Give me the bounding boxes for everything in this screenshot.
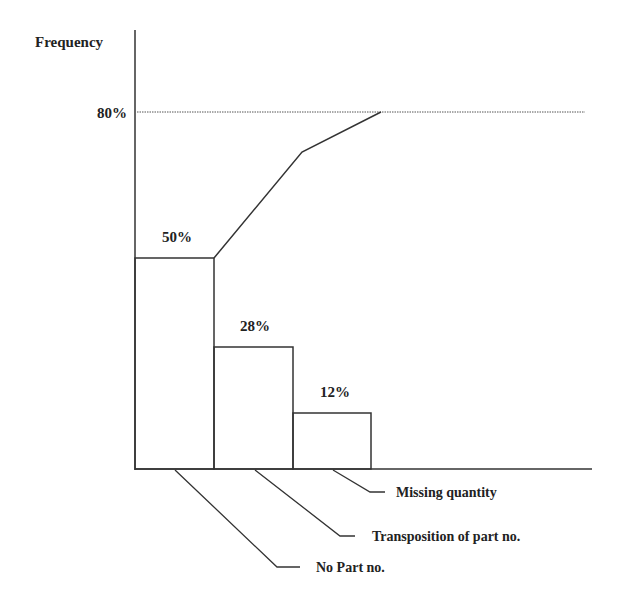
bar-missing-quantity	[293, 413, 371, 469]
leader-line-transposition	[255, 470, 355, 536]
bar-label-12: 12%	[320, 384, 350, 400]
category-label-transposition: Transposition of part no.	[372, 529, 520, 544]
leader-line-no-part-no	[175, 470, 300, 567]
category-label-missing-quantity: Missing quantity	[396, 485, 497, 500]
category-label-no-part-no: No Part no.	[316, 560, 385, 575]
bar-label-50: 50%	[162, 229, 192, 245]
leader-line-missing-quantity	[333, 470, 385, 492]
y-axis-label: Frequency	[35, 34, 104, 50]
reference-label: 80%	[97, 105, 127, 121]
pareto-chart: Frequency 80% 50% 28% 12% Missing quanti…	[0, 0, 624, 613]
bar-transposition	[214, 347, 293, 469]
cumulative-line	[214, 112, 381, 258]
bar-label-28: 28%	[240, 318, 270, 334]
bar-no-part-no	[135, 258, 214, 469]
